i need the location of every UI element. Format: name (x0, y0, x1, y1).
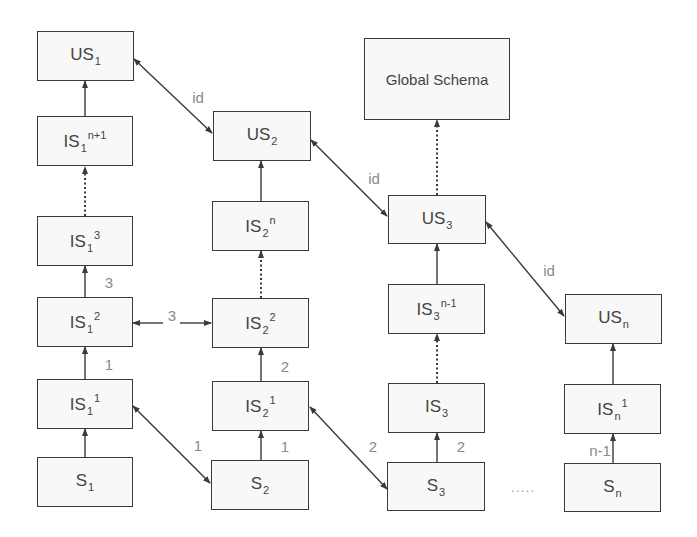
edge-label: id (192, 89, 204, 106)
schema-box-is3n1: IS3n-1 (388, 284, 485, 334)
schema-label-subscript: 3 (439, 486, 445, 498)
schema-box-gs: Global Schema (364, 38, 510, 120)
schema-label-superscript: 3 (94, 229, 100, 241)
edge-label: 2 (281, 358, 289, 375)
schema-label-subscript: 3 (434, 310, 440, 322)
edge-label: 1 (281, 438, 289, 455)
schema-label: IS22 (245, 311, 275, 336)
schema-label-base: S (427, 476, 438, 495)
schema-label-subscript: 2 (262, 407, 268, 419)
edge-label: 1 (105, 356, 113, 373)
schema-label: USn (598, 308, 629, 330)
schema-label-subscript: 3 (446, 219, 452, 231)
schema-box-is11: IS11 (37, 379, 133, 429)
schema-label-base: US (70, 45, 94, 64)
schema-label-superscript: 2 (270, 311, 276, 323)
schema-label-superscript: n (270, 214, 276, 226)
edge-label: id (543, 262, 555, 279)
schema-label-base: IS (597, 400, 613, 419)
schema-label: S1 (76, 471, 94, 493)
edge-label: 3 (105, 274, 113, 291)
schema-label-base: IS (416, 300, 432, 319)
schema-label-subscript: n (623, 318, 629, 330)
edge-label: id (368, 170, 380, 187)
schema-integration-diagram: US1IS1n+1IS13IS12IS11S1US2IS2nIS22IS21S2… (0, 0, 697, 537)
schema-label: IS3 (425, 397, 448, 419)
schema-box-is22: IS22 (212, 298, 309, 348)
schema-label-subscript: 1 (87, 323, 93, 335)
schema-box-is3: IS3 (388, 383, 485, 433)
schema-label-superscript: n-1 (441, 297, 457, 309)
schema-label-base: Global Schema (386, 71, 489, 88)
schema-label-subscript: 1 (95, 55, 101, 67)
schema-box-is12: IS12 (37, 297, 133, 347)
schema-label-base: IS (70, 395, 86, 414)
edge-label: 1 (194, 437, 202, 454)
schema-box-usn: USn (565, 294, 662, 344)
schema-label-subscript: 1 (87, 405, 93, 417)
schema-label: IS12 (70, 310, 100, 335)
schema-label-base: US (598, 308, 622, 327)
schema-label: IS2n (245, 214, 275, 239)
schema-box-s1: S1 (37, 457, 133, 507)
schema-label-superscript: n+1 (88, 129, 107, 141)
schema-label-base: IS (64, 132, 80, 151)
schema-label-subscript: 1 (81, 142, 87, 154)
schema-label: Sn (603, 477, 621, 499)
schema-label-superscript: 2 (94, 310, 100, 322)
schema-label-base: S (76, 471, 87, 490)
schema-label: Global Schema (386, 71, 489, 88)
schema-label-base: IS (70, 232, 86, 251)
edge-label: 2 (457, 438, 465, 455)
schema-label-base: US (422, 209, 446, 228)
schema-box-us1: US1 (37, 31, 134, 81)
schema-label: S3 (427, 476, 445, 498)
schema-box-is1n1: IS1n+1 (37, 116, 133, 166)
schema-box-sn: Sn (564, 463, 661, 512)
schema-label: ISn1 (597, 397, 627, 422)
schema-label: IS1n+1 (64, 129, 107, 154)
schema-label-subscript: n (614, 410, 620, 422)
edge-label: 3 (168, 307, 176, 324)
schema-box-us3: US3 (388, 195, 486, 244)
schema-label-subscript: 2 (262, 227, 268, 239)
schema-box-s2: S2 (211, 460, 309, 510)
schema-box-is2n: IS2n (212, 201, 309, 251)
schema-label-base: IS (245, 217, 261, 236)
schema-label-subscript: 2 (271, 135, 277, 147)
schema-label-subscript: 2 (262, 324, 268, 336)
schema-label-subscript: 2 (263, 484, 269, 496)
schema-label-base: IS (425, 397, 441, 416)
ellipsis: ..... (511, 479, 535, 495)
schema-label-superscript: 1 (94, 392, 100, 404)
schema-label-superscript: 1 (622, 397, 628, 409)
schema-box-is21: IS21 (212, 381, 309, 431)
edge-label: 2 (369, 438, 377, 455)
schema-label-base: S (251, 474, 262, 493)
schema-label-base: IS (245, 314, 261, 333)
schema-label-base: IS (70, 313, 86, 332)
schema-box-is13: IS13 (37, 216, 133, 266)
schema-label: IS11 (70, 392, 100, 417)
schema-box-s3: S3 (387, 462, 485, 511)
schema-label-base: IS (245, 397, 261, 416)
schema-label-subscript: 1 (87, 242, 93, 254)
schema-label: IS3n-1 (416, 297, 456, 322)
schema-box-us2: US2 (213, 111, 311, 161)
schema-label-subscript: n (616, 487, 622, 499)
edge-label: n-1 (589, 442, 611, 459)
schema-box-isn1: ISn1 (564, 384, 661, 434)
schema-label-base: US (247, 125, 271, 144)
schema-label-base: S (603, 477, 614, 496)
schema-label: IS13 (70, 229, 100, 254)
schema-label: US3 (422, 209, 453, 231)
schema-label: S2 (251, 474, 269, 496)
schema-label: IS21 (245, 394, 275, 419)
schema-label-superscript: 1 (270, 394, 276, 406)
schema-label: US2 (247, 125, 278, 147)
schema-label-subscript: 3 (442, 407, 448, 419)
schema-label: US1 (70, 45, 101, 67)
schema-label-subscript: 1 (88, 481, 94, 493)
